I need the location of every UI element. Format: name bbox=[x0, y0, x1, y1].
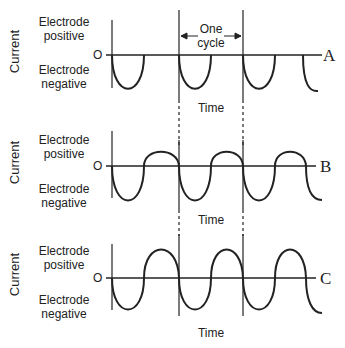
current-label-c: Current bbox=[7, 253, 22, 296]
letter-c: C bbox=[320, 269, 331, 289]
negative-label-a: Electrodenegative bbox=[34, 63, 94, 91]
time-label-c: Time bbox=[196, 326, 226, 340]
positive-label-b: Electrodepositive bbox=[34, 133, 94, 161]
current-label-b: Current bbox=[7, 141, 22, 184]
negative-label-b: Electrodenegative bbox=[34, 182, 94, 210]
letter-a: A bbox=[323, 46, 335, 66]
origin-label-c: O bbox=[93, 271, 102, 285]
wave-a bbox=[112, 55, 144, 89]
current-label-a: Current bbox=[7, 30, 22, 73]
positive-label-c: Electrodepositive bbox=[34, 244, 94, 272]
origin-label-a: O bbox=[93, 48, 102, 62]
wave-b bbox=[112, 152, 322, 201]
origin-label-b: O bbox=[93, 159, 102, 173]
positive-label-a: Electrodepositive bbox=[34, 15, 94, 43]
one-cycle-label: Onecycle bbox=[196, 22, 226, 50]
time-label-a: Time bbox=[196, 101, 226, 115]
negative-label-c: Electrodenegative bbox=[34, 293, 94, 321]
wave-c bbox=[112, 250, 322, 314]
time-label-b: Time bbox=[196, 213, 226, 227]
letter-b: B bbox=[320, 157, 331, 177]
